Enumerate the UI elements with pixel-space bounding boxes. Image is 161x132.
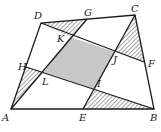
label-h: H bbox=[17, 61, 27, 72]
label-l: L bbox=[41, 76, 49, 87]
shaded-parallelogram bbox=[44, 37, 115, 89]
label-g: G bbox=[84, 7, 92, 18]
label-k: K bbox=[56, 33, 65, 44]
label-j: J bbox=[111, 54, 118, 65]
label-e: E bbox=[78, 112, 87, 123]
label-i: I bbox=[96, 78, 102, 89]
label-c: C bbox=[131, 3, 139, 14]
label-b: B bbox=[149, 112, 157, 123]
label-a: A bbox=[1, 112, 9, 123]
label-d: D bbox=[33, 10, 42, 21]
quadrilateral-diagram: ABCDEFGHKJIL bbox=[0, 0, 161, 132]
label-f: F bbox=[147, 58, 156, 69]
